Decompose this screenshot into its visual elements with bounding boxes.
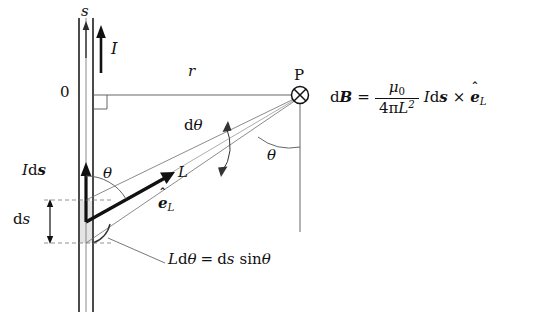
theta-label-at-P: θ xyxy=(267,148,276,163)
right-angle-marker xyxy=(93,95,107,109)
formula-fraction: μ04πL2 xyxy=(375,80,419,116)
distance-r-label: r xyxy=(188,64,195,79)
arc-relation-equation: Ldθ=dssinθ xyxy=(168,252,271,267)
theta-arc-at-P xyxy=(258,137,300,148)
physics-diagram-biot-savart: s I 0 r P dθ θ θ Ids L ˆeL ds Ldθ=dssinθ… xyxy=(0,0,538,327)
ds-segment-label: ds xyxy=(13,212,30,227)
s-axis-arrow-head xyxy=(83,21,90,30)
theta-label-at-wire: θ xyxy=(103,166,112,181)
eL-unit-vector-label: ˆeL xyxy=(158,196,174,213)
dtheta-curved-arrow-shaft xyxy=(222,126,230,172)
origin-label: 0 xyxy=(60,85,70,100)
length-L-label: L xyxy=(178,165,188,180)
s-axis-label: s xyxy=(81,4,89,19)
point-P-label: P xyxy=(294,68,304,83)
ray-upper-to-P xyxy=(86,98,296,200)
Ids-vector-label: Ids xyxy=(22,163,46,178)
dtheta-label: dθ xyxy=(184,118,203,133)
current-label: I xyxy=(111,41,117,57)
leader-line-arc-relation xyxy=(108,238,165,263)
current-arrow-head xyxy=(96,25,106,38)
Ids-vector-head xyxy=(81,162,92,176)
eL-unit-vector-shaft xyxy=(86,178,165,222)
dtheta-arrow-head-lower xyxy=(218,167,228,178)
biot-savart-formula: dB=μ04πL2Ids×ˆeL xyxy=(330,80,487,116)
L-dtheta-arc xyxy=(93,224,110,243)
dtheta-arrow-head-upper xyxy=(223,121,232,132)
